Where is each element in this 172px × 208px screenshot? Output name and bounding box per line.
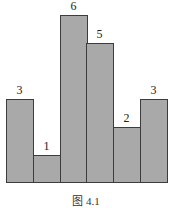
- bar-1: [6, 99, 34, 183]
- bar-3: [60, 15, 88, 183]
- bar-value-label: 2: [113, 112, 140, 124]
- bar-5: [113, 127, 141, 183]
- histogram-chart: 316523: [0, 0, 172, 208]
- bar-value-label: 3: [6, 84, 33, 96]
- bar-value-label: 1: [33, 140, 60, 152]
- bar-6: [140, 99, 168, 183]
- bar-value-label: 3: [140, 84, 167, 96]
- bar-4: [86, 43, 114, 183]
- bar-value-label: 5: [86, 28, 113, 40]
- bar-value-label: 6: [60, 0, 87, 12]
- bar-2: [33, 155, 61, 183]
- figure-caption: 图 4.1: [0, 192, 172, 208]
